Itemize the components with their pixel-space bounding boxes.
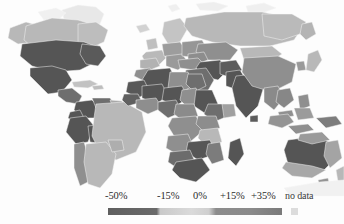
choropleth-figure: -50% -15% 0% +15% +35% no data <box>0 0 344 224</box>
legend-tick-plus15: +15% <box>220 190 245 201</box>
legend-tick-plus35: +35% <box>251 190 276 201</box>
map-legend: -50% -15% 0% +15% +35% no data <box>0 190 344 224</box>
region-korea <box>296 61 306 71</box>
legend-tick-zero: 0% <box>193 190 207 201</box>
legend-tick-minus15: -15% <box>157 190 179 201</box>
region-uk-ireland <box>146 38 158 50</box>
legend-tick-labels: -50% -15% 0% +15% +35% no data <box>0 190 344 205</box>
legend-no-data-swatch <box>291 208 298 215</box>
legend-tick-minus50: -50% <box>105 190 127 201</box>
legend-gradient-svg <box>108 208 282 215</box>
legend-label-no-data: no data <box>285 190 313 201</box>
legend-gradient-rect <box>108 208 282 215</box>
region-somalia <box>222 104 236 118</box>
world-map-svg <box>0 0 344 200</box>
region-hispaniola <box>92 85 104 90</box>
region-sri-lanka <box>250 115 258 122</box>
legend-color-bar <box>108 208 282 215</box>
world-map <box>0 0 344 200</box>
